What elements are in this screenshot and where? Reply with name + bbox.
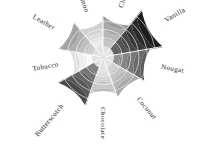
category-label-leather: Leather bbox=[31, 13, 56, 32]
category-label-cinnamon: Cinnamon bbox=[72, 0, 91, 14]
chart-canvas: CloveVanillaNougatCoconutChocolateButter… bbox=[0, 0, 205, 146]
category-label-butterscotch: Butterscotch bbox=[33, 102, 65, 138]
category-label-tobacco: Tobacco bbox=[32, 60, 59, 72]
category-label-chocolate: Chocolate bbox=[99, 107, 107, 139]
polar-rose-chart: CloveVanillaNougatCoconutChocolateButter… bbox=[0, 0, 205, 146]
category-label-nougat: Nougat bbox=[160, 63, 184, 75]
category-label-vanilla: Vanilla bbox=[163, 6, 187, 24]
